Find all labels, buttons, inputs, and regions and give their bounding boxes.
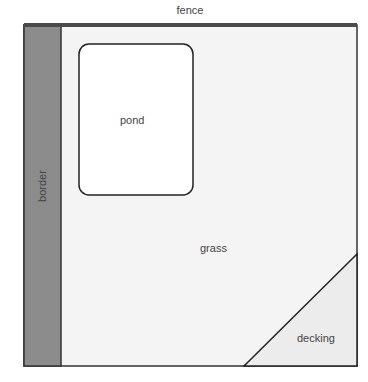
pond-label: pond <box>120 114 144 126</box>
fence-bar <box>24 23 357 27</box>
garden-plan <box>0 0 368 382</box>
fence-label: fence <box>0 4 368 16</box>
grass-label: grass <box>200 242 227 254</box>
border-label: border <box>36 170 48 202</box>
decking-label: decking <box>297 332 335 344</box>
